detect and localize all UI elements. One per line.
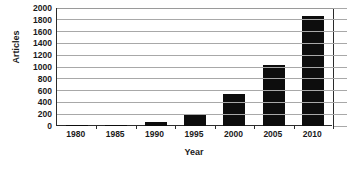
y-tick-label: 1800 xyxy=(20,16,52,25)
x-tick-label: 1995 xyxy=(174,130,214,139)
gridline xyxy=(57,8,333,9)
gridline xyxy=(57,90,333,91)
y-tick-label: 400 xyxy=(20,98,52,107)
y-tick-label: 600 xyxy=(20,86,52,95)
gridline-tick xyxy=(333,67,347,68)
x-tick-label: 1985 xyxy=(95,130,135,139)
bar xyxy=(145,122,167,126)
x-tick-label: 2000 xyxy=(213,130,253,139)
x-axis-title: Year xyxy=(56,147,332,157)
gridline-tick xyxy=(333,114,347,115)
gridline-tick xyxy=(333,43,347,44)
y-tick-label: 1400 xyxy=(20,39,52,48)
gridline-tick xyxy=(333,102,347,103)
gridline-tick xyxy=(333,55,347,56)
bar xyxy=(263,65,285,126)
gridline xyxy=(57,55,333,56)
gridline-tick xyxy=(333,126,347,127)
y-tick-label: 800 xyxy=(20,75,52,84)
x-tick-mark xyxy=(333,126,334,129)
x-tick-mark xyxy=(294,126,295,129)
x-tick-label: 1980 xyxy=(56,130,96,139)
plot-area xyxy=(56,8,332,126)
gridline xyxy=(57,19,333,20)
gridline-tick xyxy=(333,8,347,9)
gridline xyxy=(57,67,333,68)
x-tick-label: 1990 xyxy=(135,130,175,139)
gridline xyxy=(57,43,333,44)
bar-chart: Articles 0200400600800100012001400160018… xyxy=(0,0,358,169)
x-tick-label: 2010 xyxy=(292,130,332,139)
y-tick-label: 1600 xyxy=(20,27,52,36)
x-tick-mark xyxy=(175,126,176,129)
bar xyxy=(105,125,127,126)
bar xyxy=(223,94,245,126)
y-axis-tick-labels: 0200400600800100012001400160018002000 xyxy=(20,8,52,126)
x-tick-mark xyxy=(136,126,137,129)
gridline xyxy=(57,102,333,103)
y-tick-label: 2000 xyxy=(20,4,52,13)
bar xyxy=(66,125,88,126)
bar xyxy=(184,115,206,126)
gridline xyxy=(57,78,333,79)
x-tick-mark xyxy=(254,126,255,129)
x-axis-tick-labels: 1980198519901995200020052010 xyxy=(56,130,332,144)
gridline-tick xyxy=(333,19,347,20)
gridline xyxy=(57,114,333,115)
x-tick-mark xyxy=(215,126,216,129)
gridline-tick xyxy=(333,90,347,91)
x-tick-label: 2005 xyxy=(253,130,293,139)
y-tick-label: 1200 xyxy=(20,51,52,60)
gridline-tick xyxy=(333,31,347,32)
gridline xyxy=(57,31,333,32)
y-tick-label: 0 xyxy=(20,122,52,131)
bar xyxy=(302,16,324,126)
y-tick-label: 1000 xyxy=(20,63,52,72)
x-tick-mark xyxy=(96,126,97,129)
gridline-tick xyxy=(333,78,347,79)
y-tick-label: 200 xyxy=(20,110,52,119)
